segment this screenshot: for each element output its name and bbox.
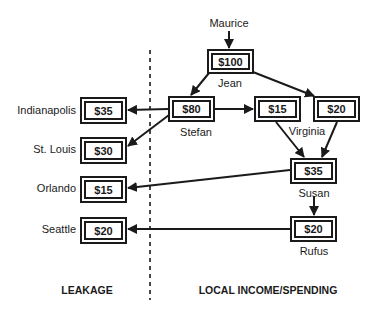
node-susan: $35 — [290, 158, 337, 184]
node-virginia-a-amount: $15 — [258, 100, 297, 118]
money-flow-diagram: Maurice $100 Jean $80 Stefan $15 $20 Vir… — [0, 0, 379, 311]
node-virginia-label: Virginia — [289, 125, 326, 137]
flow-arrow-jean-to-stefan — [191, 73, 209, 95]
node-jean: $100 — [207, 49, 254, 74]
flow-arrow-stefan-to-indianapolis — [128, 109, 168, 110]
node-orlando: $15 — [80, 176, 127, 203]
node-virginia-a: $15 — [254, 96, 301, 122]
node-indianapolis-amount: $35 — [84, 101, 123, 120]
node-virginia-b-amount: $20 — [317, 100, 356, 118]
node-orlando-label: Orlando — [37, 182, 76, 194]
flow-arrow-stefan-to-st-louis — [128, 115, 169, 146]
node-rufus-amount: $20 — [294, 220, 333, 238]
node-seattle-label: Seattle — [42, 223, 76, 235]
node-rufus-label: Rufus — [300, 245, 329, 257]
node-st-louis: $30 — [80, 137, 127, 164]
node-indianapolis-label: Indianapolis — [17, 104, 76, 116]
flow-arrows-layer — [0, 0, 379, 311]
node-orlando-amount: $15 — [84, 180, 123, 199]
footer-local-label: LOCAL INCOME/SPENDING — [199, 284, 338, 296]
flow-arrow-jean-to-virginia-b — [253, 72, 314, 96]
node-jean-label: Jean — [218, 77, 242, 89]
node-susan-amount: $35 — [294, 162, 333, 180]
node-st-louis-label: St. Louis — [33, 143, 76, 155]
node-seattle: $20 — [80, 217, 127, 244]
source-label-maurice: Maurice — [209, 17, 248, 29]
node-susan-label: Susan — [298, 187, 329, 199]
node-jean-amount: $100 — [211, 53, 250, 70]
node-stefan-label: Stefan — [180, 126, 212, 138]
node-seattle-amount: $20 — [84, 221, 123, 240]
node-stefan-amount: $80 — [172, 100, 211, 118]
node-st-louis-amount: $30 — [84, 141, 123, 160]
node-rufus: $20 — [290, 216, 337, 242]
node-indianapolis: $35 — [80, 97, 127, 124]
node-stefan: $80 — [168, 96, 215, 122]
flow-arrow-susan-to-orlando — [128, 170, 290, 188]
node-virginia-b: $20 — [313, 96, 360, 122]
footer-leakage-label: LEAKAGE — [61, 284, 112, 296]
